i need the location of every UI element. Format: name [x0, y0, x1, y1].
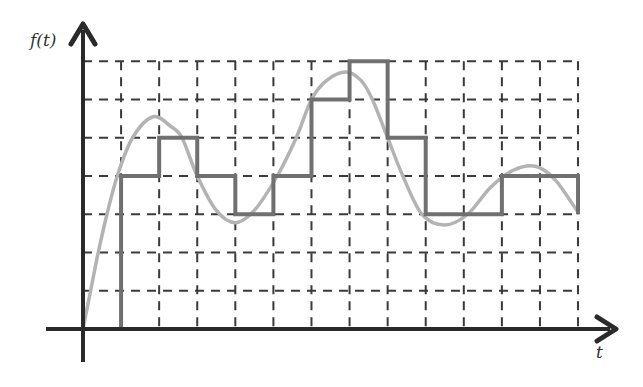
x-axis-label: t	[596, 342, 603, 362]
chart-canvas	[0, 0, 643, 387]
y-axis-label: f(t)	[30, 30, 56, 50]
step-function	[83, 61, 578, 329]
axes	[46, 24, 616, 362]
